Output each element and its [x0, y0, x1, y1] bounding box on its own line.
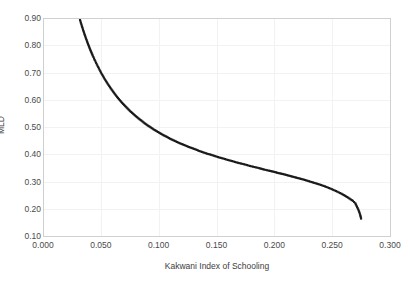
y-tick-label-8: 0.90 [3, 14, 41, 23]
x-axis-line [43, 236, 391, 237]
x-tick-label-2: 0.100 [148, 241, 169, 250]
plot-area [43, 18, 390, 236]
x-tick-label-3: 0.150 [206, 241, 227, 250]
y-tick-label-2: 0.30 [3, 177, 41, 186]
data-series-markers [43, 18, 390, 236]
y-tick-label-3: 0.40 [3, 150, 41, 159]
plot-border-top [43, 18, 391, 19]
y-axis-title: MLD [0, 116, 6, 134]
chart-container: 0.100.200.300.400.500.600.700.800.90 0.0… [0, 0, 410, 285]
y-axis-line [43, 18, 44, 237]
y-tick-label-5: 0.60 [3, 96, 41, 105]
y-tick-label-4: 0.50 [3, 123, 41, 132]
y-tick-label-1: 0.20 [3, 205, 41, 214]
x-tick-label-6: 0.300 [379, 241, 400, 250]
x-tick-label-4: 0.200 [264, 241, 285, 250]
x-tick-label-0: 0.000 [32, 241, 53, 250]
y-tick-label-7: 0.80 [3, 41, 41, 50]
x-tick-label-1: 0.050 [90, 241, 111, 250]
x-tick-label-5: 0.250 [322, 241, 343, 250]
x-axis-title: Kakwani Index of Schooling [43, 261, 391, 271]
plot-border-right [390, 18, 391, 237]
y-tick-label-0: 0.10 [3, 232, 41, 241]
data-marker [360, 218, 362, 220]
y-tick-label-6: 0.70 [3, 68, 41, 77]
